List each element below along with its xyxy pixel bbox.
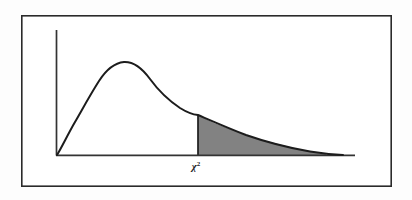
chi-square-figure-svg: χ2 [0,0,412,200]
figure-root: χ2 [0,0,412,200]
outer-border [22,16,391,186]
critical-value-exponent: 2 [197,160,201,168]
